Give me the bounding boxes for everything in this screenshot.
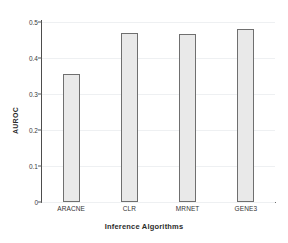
x-tick-label-clr: CLR bbox=[123, 205, 136, 212]
y-tick-label-0.1: 0.1 bbox=[18, 163, 38, 170]
y-tick-mark-0.5 bbox=[38, 22, 42, 23]
x-axis-title: Inference Algorithms bbox=[0, 222, 288, 231]
plot-area bbox=[42, 22, 275, 202]
bar-aracne bbox=[63, 74, 80, 202]
x-tick-label-mrnet: MRNET bbox=[176, 205, 200, 212]
gridline-0.5 bbox=[42, 22, 275, 23]
y-tick-label-0.4: 0.4 bbox=[18, 55, 38, 62]
y-tick-mark-0.2 bbox=[38, 130, 42, 131]
y-tick-label-0.5: 0.5 bbox=[18, 19, 38, 26]
bar-mrnet bbox=[179, 34, 196, 202]
gridline-0 bbox=[42, 202, 275, 203]
bar-gene3 bbox=[237, 29, 254, 202]
x-axis-tick-labels: ARACNECLRMRNETGENE3 bbox=[42, 205, 275, 217]
bar-chart-figure: AUROC 00.10.20.30.40.5 ARACNECLRMRNETGEN… bbox=[0, 0, 288, 243]
y-tick-mark-0.3 bbox=[38, 94, 42, 95]
x-tick-label-gene3: GENE3 bbox=[235, 205, 258, 212]
x-tick-label-aracne: ARACNE bbox=[57, 205, 85, 212]
y-tick-label-0.2: 0.2 bbox=[18, 127, 38, 134]
y-axis-tick-labels: 00.10.20.30.40.5 bbox=[16, 0, 38, 243]
y-tick-mark-0.4 bbox=[38, 58, 42, 59]
y-tick-mark-0 bbox=[38, 202, 42, 203]
y-tick-mark-0.1 bbox=[38, 166, 42, 167]
y-tick-label-0.3: 0.3 bbox=[18, 91, 38, 98]
y-tick-label-0: 0 bbox=[18, 199, 38, 206]
bar-clr bbox=[121, 33, 138, 202]
